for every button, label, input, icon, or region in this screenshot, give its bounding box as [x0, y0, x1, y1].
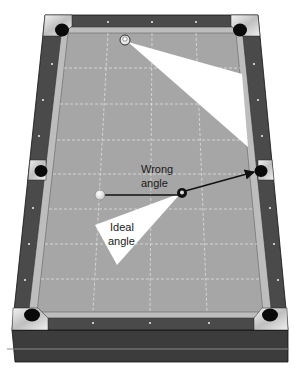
pocket-top-right — [233, 24, 247, 37]
pocket-side-left — [35, 165, 48, 177]
object-ball-top — [120, 35, 130, 45]
pocket-bottom-right — [262, 309, 278, 322]
pocket-side-right — [255, 165, 268, 177]
wrong-angle-label-line2: angle — [141, 177, 168, 189]
pocket-bottom-left — [24, 309, 40, 322]
ideal-angle-label-line2: angle — [108, 235, 135, 247]
cue-ball — [95, 190, 105, 200]
wrong-angle-label-line1: Wrong — [141, 163, 173, 175]
pocket-top-left — [55, 24, 69, 37]
table-front-face — [12, 330, 288, 362]
nine-ball — [177, 188, 187, 198]
pool-table-diagram: Wrong angle Ideal angle — [0, 0, 301, 378]
ideal-angle-label-line1: Ideal — [110, 221, 134, 233]
